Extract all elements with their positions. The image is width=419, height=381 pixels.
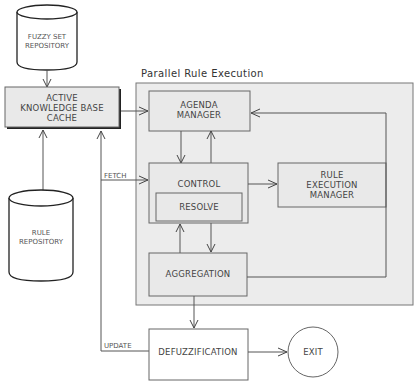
rem-label-2: EXECUTION xyxy=(306,180,357,190)
agenda-label-2: MANAGER xyxy=(177,110,221,120)
defuzzification-box: DEFUZZIFICATION xyxy=(149,329,248,380)
edge-defuzz-to-exit xyxy=(248,348,287,356)
fuzzy-set-label-1: FUZZY SET xyxy=(28,33,67,41)
kb-cache-label-2: KNOWLEDGE BASE xyxy=(20,103,104,113)
agenda-manager-box: AGENDA MANAGER xyxy=(149,91,250,131)
parallel-rule-execution-diagram: Parallel Rule Execution FUZZY SET REPOSI… xyxy=(0,0,419,381)
fuzzy-set-label-2: REPOSITORY xyxy=(25,42,70,50)
control-label: CONTROL xyxy=(178,179,221,189)
edge-rule-repo-to-cache xyxy=(39,130,47,190)
active-kb-cache-box: ACTIVE KNOWLEDGE BASE CACHE xyxy=(5,87,121,129)
aggregation-box: AGGREGATION xyxy=(149,253,247,296)
defuzz-label: DEFUZZIFICATION xyxy=(158,347,237,357)
kb-cache-label-1: ACTIVE xyxy=(46,93,78,103)
kb-cache-label-3: CACHE xyxy=(47,113,77,123)
rule-execution-manager-box: RULE EXECUTION MANAGER xyxy=(278,163,386,207)
update-label: UPDATE xyxy=(104,342,132,350)
fuzzy-set-repository-cylinder: FUZZY SET REPOSITORY xyxy=(17,5,77,70)
resolve-box: RESOLVE xyxy=(156,193,242,221)
fetch-label: FETCH xyxy=(104,172,126,180)
rule-repo-label-2: REPOSITORY xyxy=(19,238,64,246)
rule-repo-label-1: RULE xyxy=(32,229,50,237)
rule-repository-cylinder: RULE REPOSITORY xyxy=(9,190,73,281)
agenda-label-1: AGENDA xyxy=(180,100,217,110)
resolve-label: RESOLVE xyxy=(179,202,219,212)
control-box: CONTROL RESOLVE xyxy=(149,163,248,223)
rem-label-3: MANAGER xyxy=(310,190,354,200)
rem-label-1: RULE xyxy=(320,170,343,180)
exit-label: EXIT xyxy=(303,347,323,357)
aggregation-label: AGGREGATION xyxy=(166,269,231,279)
container-title: Parallel Rule Execution xyxy=(141,68,264,79)
edge-fuzzy-to-cache xyxy=(43,70,51,87)
exit-node: EXIT xyxy=(288,327,338,377)
